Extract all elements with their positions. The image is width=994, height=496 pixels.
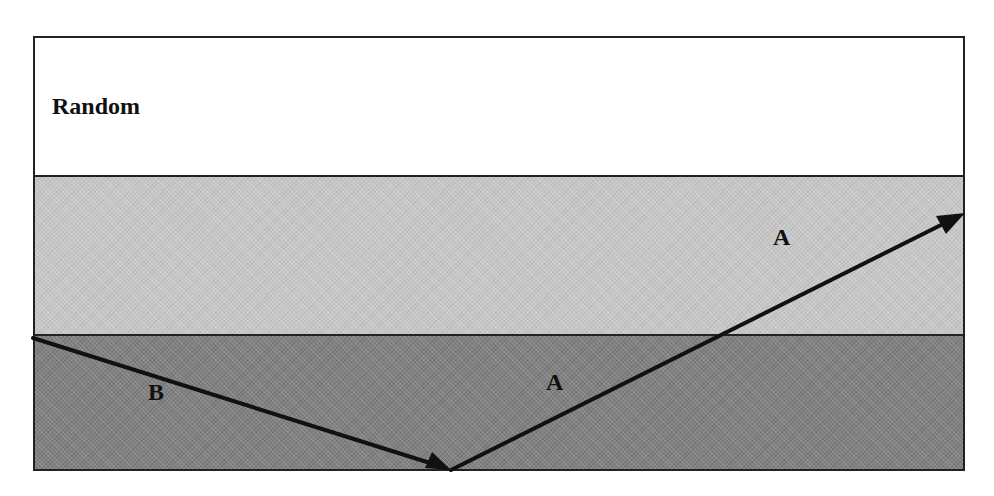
layer-bottom-dark-gray: [35, 334, 963, 471]
ray-a-lower-label: A: [546, 370, 563, 394]
layer-diagram-frame: [33, 36, 965, 471]
layer-top-white: [35, 38, 963, 175]
random-layer-label: Random: [52, 94, 140, 118]
ray-a-upper-label: A: [773, 225, 790, 249]
ray-b-label: B: [148, 380, 164, 404]
layer-middle-light-gray: [35, 175, 963, 334]
